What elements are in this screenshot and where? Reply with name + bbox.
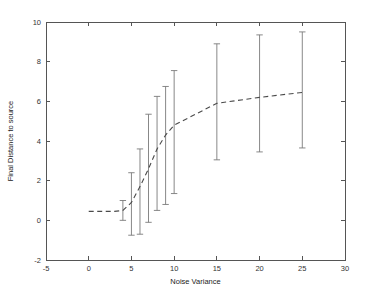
error-bar-x25 [299, 32, 305, 148]
error-bar-x7 [145, 114, 151, 222]
trend-line-0 [89, 92, 303, 211]
y-tick-label--2: -2 [34, 256, 41, 265]
x-tick-label--5: -5 [43, 264, 50, 273]
x-tick-label-5: 5 [129, 264, 133, 273]
axis-frame [46, 22, 345, 260]
x-tick-label-30: 30 [341, 264, 349, 273]
error-bar-x9 [162, 86, 168, 204]
x-tick-label-0: 0 [87, 264, 91, 273]
final-distance-vs-noise-variance-chart: -5051015202530-20246810Noise VarianceFin… [0, 0, 376, 300]
y-tick-label-8: 8 [37, 57, 41, 66]
x-tick-label-15: 15 [213, 264, 221, 273]
x-axis-label: Noise Variance [170, 277, 220, 286]
y-tick-label-4: 4 [37, 137, 41, 146]
x-tick-label-25: 25 [298, 264, 306, 273]
error-bar-x6 [137, 149, 143, 234]
y-tick-label-2: 2 [37, 176, 41, 185]
x-tick-label-20: 20 [255, 264, 263, 273]
error-bar-x10 [171, 71, 177, 194]
chart-container: -5051015202530-20246810Noise VarianceFin… [0, 0, 376, 300]
x-tick-label-10: 10 [170, 264, 178, 273]
error-bar-x8 [154, 96, 160, 210]
error-bar-x20 [256, 35, 262, 152]
y-axis-label: Final Distance to source [6, 101, 15, 181]
y-tick-label-10: 10 [33, 18, 41, 27]
error-bar-x15 [214, 44, 220, 160]
y-tick-label-0: 0 [37, 216, 41, 225]
y-tick-label-6: 6 [37, 97, 41, 106]
